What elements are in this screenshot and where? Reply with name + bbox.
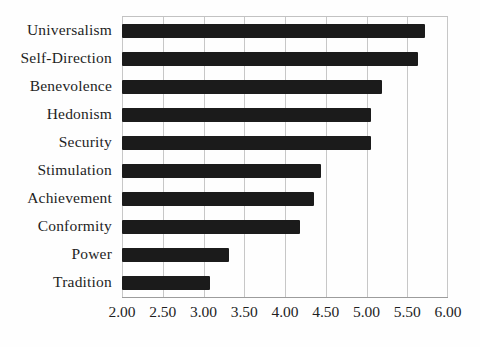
category-label: Achievement [0,184,112,212]
bar-security [122,136,371,150]
category-label: Self-Direction [0,44,112,72]
x-tick-label: 4.50 [312,302,339,322]
x-tick-label: 5.00 [353,302,380,322]
category-axis-labels: UniversalismSelf-DirectionBenevolenceHed… [0,16,112,296]
category-label: Benevolence [0,72,112,100]
x-tick-label: 6.00 [434,302,461,322]
x-tick-label: 3.00 [190,302,217,322]
bar-power [122,248,229,262]
bar-stimulation [122,164,321,178]
plot-area [122,16,448,298]
category-label: Universalism [0,16,112,44]
bar-universalism [122,24,425,38]
gridline [447,17,448,297]
category-label: Stimulation [0,156,112,184]
values-bar-chart-figure: UniversalismSelf-DirectionBenevolenceHed… [0,0,480,347]
category-label: Conformity [0,212,112,240]
x-tick-label: 2.50 [149,302,176,322]
x-tick-label: 3.50 [231,302,258,322]
category-label: Hedonism [0,100,112,128]
x-axis-tick-labels: 2.002.503.003.504.004.505.005.506.00 [122,302,448,324]
bar-tradition [122,276,210,290]
bar-benevolence [122,80,382,94]
x-tick-label: 4.00 [271,302,298,322]
category-label: Power [0,240,112,268]
category-label: Tradition [0,268,112,296]
bar-conformity [122,220,300,234]
x-tick-label: 5.50 [394,302,421,322]
bar-achievement [122,192,314,206]
x-tick-label: 2.00 [108,302,135,322]
bar-self-direction [122,52,418,66]
bar-hedonism [122,108,371,122]
category-label: Security [0,128,112,156]
